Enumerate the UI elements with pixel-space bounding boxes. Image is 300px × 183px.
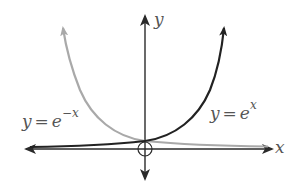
curve-exp-negative-x	[63, 28, 268, 147]
graph-canvas	[0, 0, 300, 183]
label-exp-x: y=ex	[210, 102, 257, 122]
label-base: e	[52, 111, 62, 131]
label-equals: =	[35, 111, 49, 131]
label-lhs: y	[210, 103, 220, 123]
exponential-functions-diagram: y x y=e−x y=ex	[0, 0, 300, 183]
x-axis-label: x	[275, 139, 285, 156]
label-exp-negative-x: y=e−x	[22, 110, 79, 130]
label-lhs: y	[22, 111, 32, 131]
label-exponent: x	[250, 98, 257, 112]
y-axis-label: y	[154, 11, 164, 28]
label-base: e	[240, 103, 250, 123]
label-equals: =	[223, 103, 237, 123]
label-exponent: −x	[62, 106, 79, 120]
